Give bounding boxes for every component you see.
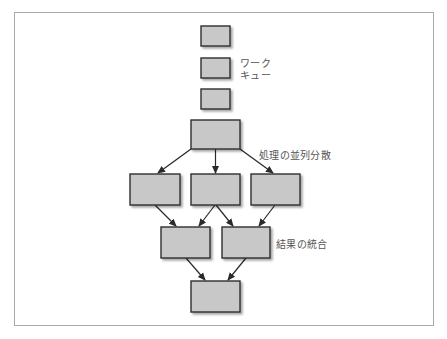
worker-box-1 <box>130 174 180 205</box>
queue-item-2 <box>201 58 230 78</box>
merger-box-1 <box>161 227 210 258</box>
result-box <box>191 281 240 312</box>
work-queue-label: ワーク キュー <box>240 58 271 82</box>
dispatcher-box <box>191 120 240 149</box>
merger-box-2 <box>222 227 270 258</box>
work-queue-label-line1: ワーク <box>240 58 271 70</box>
edges <box>155 149 275 280</box>
arrow-worker-2-merger-2 <box>216 205 233 226</box>
worker-box-2 <box>191 174 240 205</box>
arrow-worker-3-merger-2 <box>259 205 275 226</box>
arrow-dispatch-worker-1 <box>158 149 191 173</box>
merge-results-label: 結果の統合 <box>276 239 328 251</box>
work-queue-label-line2: キュー <box>240 70 271 82</box>
queue-item-1 <box>201 26 230 46</box>
parallel-distribution-label: 処理の並列分散 <box>259 150 331 162</box>
parallel-processing-diagram <box>0 0 447 339</box>
arrow-merger-1-result <box>186 258 205 280</box>
arrow-worker-1-merger-1 <box>155 205 176 226</box>
worker-box-3 <box>251 174 300 205</box>
queue-item-3 <box>201 89 230 109</box>
arrow-worker-2-merger-1 <box>199 205 215 226</box>
arrow-merger-2-result <box>228 258 246 280</box>
